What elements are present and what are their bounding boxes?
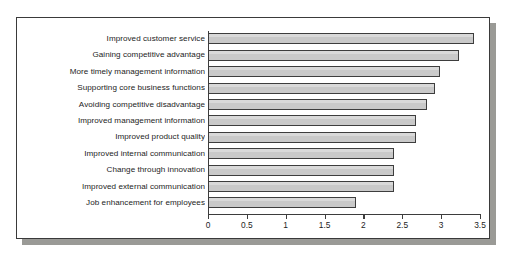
axis-tick [247, 214, 248, 219]
bar-series [208, 31, 480, 212]
bar-row [208, 146, 480, 162]
bar [208, 165, 394, 176]
bar-row [208, 97, 480, 113]
axis-tick-label: 0 [206, 220, 211, 230]
bar-row [208, 31, 480, 47]
bar [208, 50, 459, 61]
axis-tick-label: 3 [439, 220, 444, 230]
bar [208, 132, 416, 143]
bar [208, 115, 416, 126]
axis-tick-label: 2.5 [396, 220, 408, 230]
chart-panel: Improved customer service Gaining compet… [16, 17, 490, 239]
bar [208, 99, 427, 110]
category-label: Gaining competitive advantage [19, 47, 205, 63]
axis-tick-label: 2 [361, 220, 366, 230]
category-label: Change through innovation [19, 162, 205, 178]
value-axis-line [208, 214, 480, 215]
axis-tick-label: 1.5 [319, 220, 331, 230]
axis-tick-label: 0.5 [241, 220, 253, 230]
bar [208, 33, 474, 44]
axis-tick-label: 1 [283, 220, 288, 230]
category-label: Improved management information [19, 113, 205, 129]
bar-row [208, 129, 480, 145]
category-label: Improved customer service [19, 31, 205, 47]
axis-tick [286, 214, 287, 219]
bar-row [208, 195, 480, 211]
bar [208, 181, 394, 192]
axis-tick [441, 214, 442, 219]
bar-row [208, 47, 480, 63]
bar [208, 197, 356, 208]
bar [208, 148, 394, 159]
axis-tick [363, 214, 364, 219]
value-axis-origin-line [208, 31, 209, 214]
bar [208, 83, 435, 94]
axis-tick [402, 214, 403, 219]
category-axis-labels: Improved customer service Gaining compet… [19, 31, 205, 211]
bar-row [208, 162, 480, 178]
category-label: Improved internal communication [19, 146, 205, 162]
axis-tick [480, 214, 481, 219]
chart-figure: Improved customer service Gaining compet… [0, 0, 524, 263]
category-label: Avoiding competitive disadvantage [19, 97, 205, 113]
category-label: Supporting core business functions [19, 80, 205, 96]
category-label: Job enhancement for employees [19, 195, 205, 211]
bar-row [208, 113, 480, 129]
axis-tick [208, 214, 209, 219]
axis-tick-label: 3.5 [474, 220, 486, 230]
category-label: Improved external communication [19, 179, 205, 195]
bar-row [208, 179, 480, 195]
category-label: Improved product quality [19, 129, 205, 145]
bar-row [208, 64, 480, 80]
bar [208, 66, 440, 77]
bar-row [208, 80, 480, 96]
axis-tick [325, 214, 326, 219]
plot-area: Improved customer service Gaining compet… [17, 18, 491, 240]
category-label: More timely management information [19, 64, 205, 80]
